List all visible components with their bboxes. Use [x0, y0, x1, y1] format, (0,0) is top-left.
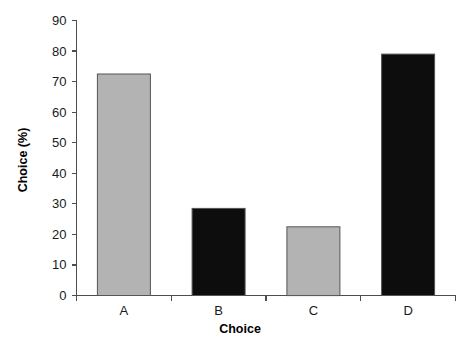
- y-tick-label: 60: [52, 105, 66, 120]
- x-tick-label-b: B: [214, 303, 223, 318]
- y-tick-label: 0: [59, 288, 66, 303]
- y-tick-label: 50: [52, 135, 66, 150]
- bar-b: [192, 208, 245, 295]
- x-tick-label-a: A: [120, 303, 129, 318]
- bar-c: [287, 227, 340, 296]
- y-tick-label: 90: [52, 13, 66, 28]
- bar-chart-figure: 9080706050403020100 ABCD Choice (%) Choi…: [0, 0, 468, 353]
- y-tick-label: 40: [52, 166, 66, 181]
- x-tick-label-c: C: [309, 303, 318, 318]
- y-axis-title: Choice (%): [16, 128, 30, 193]
- y-tick-label: 80: [52, 44, 66, 59]
- x-tick-label-d: D: [403, 303, 412, 318]
- x-axis-title: Choice: [219, 322, 261, 336]
- chart-canvas: 9080706050403020100 ABCD Choice (%) Choi…: [0, 0, 468, 353]
- y-tick-label: 70: [52, 74, 66, 89]
- y-tick-label: 10: [52, 257, 66, 272]
- bar-d: [382, 54, 435, 295]
- bar-a: [97, 74, 150, 296]
- y-tick-label: 30: [52, 196, 66, 211]
- y-tick-label: 20: [52, 227, 66, 242]
